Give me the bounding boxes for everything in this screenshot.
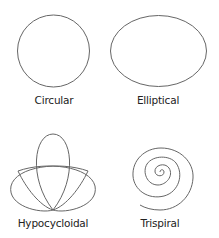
trispiral-path xyxy=(133,148,193,210)
label-elliptical: Elliptical xyxy=(108,94,208,106)
elliptical-path xyxy=(111,16,207,87)
hypocycloidal-path xyxy=(11,134,96,211)
label-hypocycloidal: Hypocycloidal xyxy=(3,217,103,229)
motion-paths-figure xyxy=(0,0,219,238)
label-trispiral: Trispiral xyxy=(110,217,210,229)
circular-path xyxy=(18,15,90,87)
label-circular: Circular xyxy=(4,94,104,106)
